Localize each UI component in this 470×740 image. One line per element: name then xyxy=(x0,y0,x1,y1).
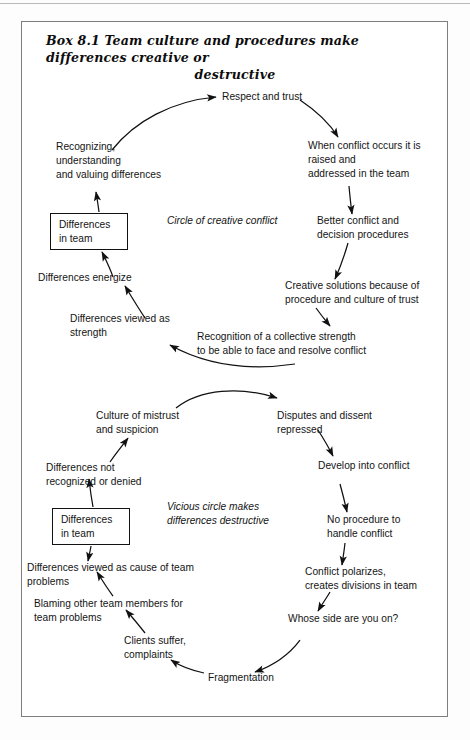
node-recognizing-understanding: Recognizing, understanding and valuing d… xyxy=(56,140,221,183)
node-develop-into-conflict: Develop into conflict xyxy=(318,459,458,473)
node-differences-not-recognized: Differences not recognized or denied xyxy=(46,461,196,489)
node-when-conflict-occurs: When conflict occurs it is raised and ad… xyxy=(308,139,458,182)
box-differences-in-team-top: Differences in team xyxy=(50,213,128,250)
caption-vicious-circle: Vicious circle makes differences destruc… xyxy=(167,500,327,529)
box-title-line1: Box 8.1 Team culture and procedures make… xyxy=(46,32,424,66)
node-differences-viewed-as-cause: Differences viewed as cause of team prob… xyxy=(27,561,237,589)
node-recognition-collective-strength: Recognition of a collective strength to … xyxy=(197,330,437,358)
node-whose-side-are-you-on: Whose side are you on? xyxy=(288,612,448,626)
box-title: Box 8.1 Team culture and procedures make… xyxy=(46,32,424,83)
node-disputes-dissent-repressed: Disputes and dissent repressed xyxy=(277,409,417,437)
box-title-line2: destructive xyxy=(46,66,424,83)
node-clients-suffer-complaints: Clients suffer, complaints xyxy=(124,634,234,662)
caption-circle-of-creative-conflict: Circle of creative conflict xyxy=(167,214,327,228)
node-respect-and-trust: Respect and trust xyxy=(222,90,302,104)
node-better-conflict-procedures: Better conflict and decision procedures xyxy=(317,214,447,242)
box-differences-in-team-bottom: Differences in team xyxy=(52,508,130,545)
node-blaming-other-team-members: Blaming other team members for team prob… xyxy=(34,597,234,625)
node-differences-energize: Differences energize xyxy=(38,271,178,285)
node-no-procedure-to-handle: No procedure to handle conflict xyxy=(327,513,447,541)
page-canvas: Box 8.1 Team culture and procedures make… xyxy=(0,0,470,740)
node-creative-solutions: Creative solutions because of procedure … xyxy=(285,279,455,307)
page-top-rule xyxy=(0,3,470,4)
node-fragmentation: Fragmentation xyxy=(208,671,318,685)
node-conflict-polarizes: Conflict polarizes, creates divisions in… xyxy=(305,565,455,593)
node-differences-viewed-strength: Differences viewed as strength xyxy=(70,312,215,340)
node-culture-of-mistrust: Culture of mistrust and suspicion xyxy=(96,409,236,437)
